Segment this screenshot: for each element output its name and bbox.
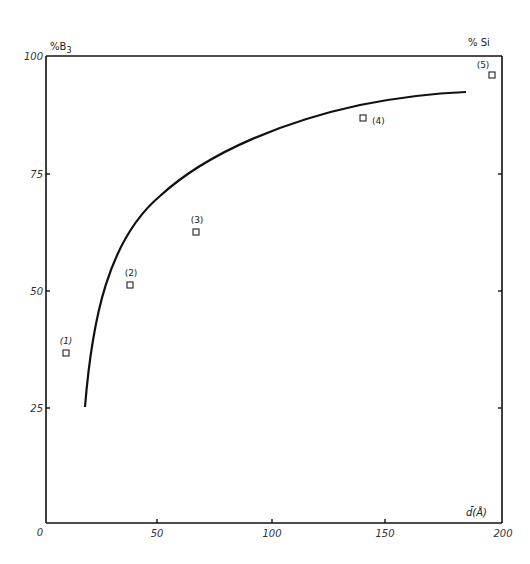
point-label-4: (4) <box>372 116 385 126</box>
y-tick-75: 75 <box>30 169 43 180</box>
data-points <box>63 72 495 356</box>
data-point-4 <box>360 115 366 121</box>
x-tick-100: 100 <box>262 528 281 539</box>
ticks <box>46 174 502 523</box>
point-labels: (1) (2) (3) (4) (5) <box>60 60 490 346</box>
y-tick-labels: 100 75 50 25 <box>24 51 43 414</box>
x-tick-0: 0 <box>37 527 43 538</box>
point-label-3: (3) <box>191 215 204 225</box>
fitted-curve <box>85 92 466 407</box>
data-point-2 <box>127 282 133 288</box>
data-point-3 <box>193 229 199 235</box>
point-label-5: (5) <box>477 60 490 70</box>
y-tick-100: 100 <box>24 51 43 62</box>
data-point-1 <box>63 350 69 356</box>
axes-frame <box>46 56 502 523</box>
point-label-1: (1) <box>60 336 73 346</box>
point-label-2: (2) <box>125 268 138 278</box>
y-axis-left-label: %B3 <box>50 41 71 55</box>
x-axis-label: d̄(Å) <box>466 506 487 518</box>
x-tick-50: 50 <box>151 528 164 539</box>
x-tick-labels: 0 50 100 150 200 <box>37 527 513 539</box>
x-tick-150: 150 <box>375 528 394 539</box>
y-tick-25: 25 <box>30 403 43 414</box>
y-axis-right-label: % Si <box>468 37 490 48</box>
data-point-5 <box>489 72 495 78</box>
x-tick-200: 200 <box>493 528 512 539</box>
y-tick-50: 50 <box>30 286 43 297</box>
chart-canvas: 0 50 100 150 200 100 75 50 25 %B3 % Si d… <box>0 0 530 564</box>
